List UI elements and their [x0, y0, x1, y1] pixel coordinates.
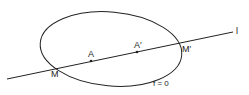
point-A-prime [136, 51, 139, 54]
label-A-prime: A′ [134, 41, 142, 50]
diagram-canvas [0, 0, 249, 95]
label-M: M [51, 70, 59, 79]
label-curve: f = 0 [153, 80, 169, 88]
label-line-l: l [236, 27, 238, 36]
label-A: A [88, 50, 94, 59]
point-A [90, 60, 93, 63]
label-M-prime: M′ [182, 45, 191, 54]
